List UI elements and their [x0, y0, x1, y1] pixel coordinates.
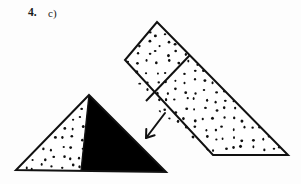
- arrow-shaft: [146, 113, 165, 138]
- lower-triangle: [0, 0, 301, 184]
- direction-arrow: [146, 113, 165, 138]
- figure-page: 4. c): [0, 0, 301, 184]
- geometry-figure: [0, 0, 301, 184]
